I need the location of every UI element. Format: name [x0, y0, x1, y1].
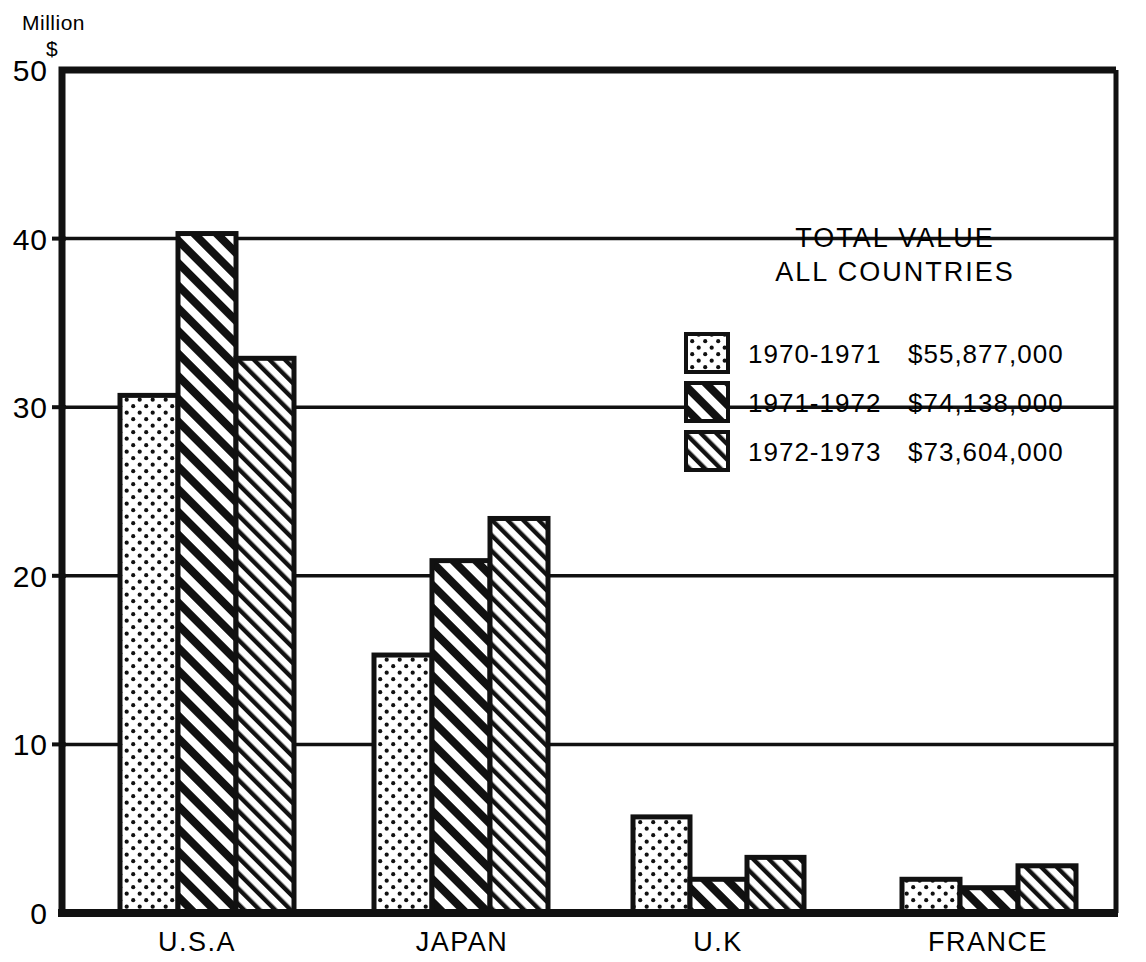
legend-swatch — [686, 432, 728, 470]
legend-swatch — [686, 383, 728, 421]
y-tick-label: 20 — [13, 560, 48, 593]
y-tick-label: 10 — [13, 728, 48, 761]
y-axis-unit-line1: Million — [22, 11, 85, 34]
bar — [902, 879, 960, 913]
legend-label: 1970-1971 — [748, 339, 881, 369]
bar — [236, 358, 294, 913]
y-tick-labels: 01020304050 — [13, 54, 66, 930]
legend: 1970-1971$55,877,0001971-1972$74,138,000… — [686, 334, 1064, 470]
y-tick-label: 30 — [13, 391, 48, 424]
category-label: FRANCE — [928, 927, 1048, 957]
y-tick-label: 40 — [13, 223, 48, 256]
bar-chart: 01020304050 U.S.AJAPANU.KFRANCE Million … — [0, 0, 1146, 962]
legend-swatch — [686, 334, 728, 372]
bar — [633, 817, 690, 913]
bar — [690, 879, 747, 913]
legend-total-value: $73,604,000 — [908, 437, 1064, 467]
bars-group — [120, 234, 1076, 913]
chart-canvas: 01020304050 U.S.AJAPANU.KFRANCE Million … — [0, 0, 1146, 962]
total-value-title-line1: TOTAL VALUE — [795, 223, 995, 253]
bar — [1018, 866, 1076, 913]
legend-label: 1972-1973 — [748, 437, 881, 467]
legend-label: 1971-1972 — [748, 388, 881, 418]
bar — [432, 561, 490, 913]
legend-total-value: $55,877,000 — [908, 339, 1064, 369]
category-label: JAPAN — [416, 927, 509, 957]
bar — [490, 518, 548, 913]
category-label: U.K — [693, 927, 743, 957]
total-value-title-line2: ALL COUNTRIES — [775, 257, 1015, 287]
y-tick-label: 50 — [13, 54, 48, 87]
category-labels: U.S.AJAPANU.KFRANCE — [158, 927, 1048, 957]
y-axis-unit-line2: $ — [46, 37, 58, 60]
legend-total-value: $74,138,000 — [908, 388, 1064, 418]
bar — [120, 395, 178, 913]
bar — [747, 857, 804, 913]
bar — [178, 234, 236, 913]
bar — [374, 655, 432, 913]
category-label: U.S.A — [158, 927, 236, 957]
y-tick-label: 0 — [30, 897, 48, 930]
